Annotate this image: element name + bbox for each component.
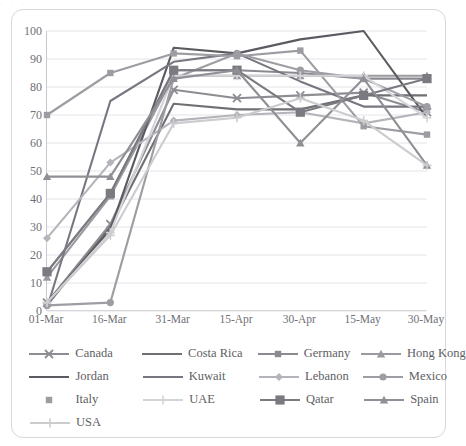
legend-row: JordanKuwaitLebanonMexico: [12, 365, 447, 388]
x-axis-tick: 31-Mar: [155, 313, 190, 325]
y-axis-tick: 90: [16, 52, 42, 67]
x-axis-tick: 15-Apr: [219, 313, 252, 325]
legend-row: ItalyUAEQatarSpain: [12, 388, 447, 411]
plot-area: [46, 31, 426, 311]
legend-row: CanadaCosta RicaGermanyHong Kong: [12, 342, 447, 365]
chart-legend: CanadaCosta RicaGermanyHong KongJordanKu…: [12, 342, 447, 437]
y-axis-tick: 60: [16, 136, 42, 151]
line-marker-icon: [140, 347, 186, 361]
legend-item-costa-rica[interactable]: Costa Rica: [140, 342, 256, 365]
legend-item-hong-kong[interactable]: Hong Kong: [359, 342, 447, 365]
legend-label: UAE: [187, 392, 215, 407]
legend-item-spain[interactable]: Spain: [362, 388, 447, 411]
triangle-marker-icon: [362, 393, 408, 407]
x-axis-tick: 01-Mar: [29, 313, 64, 325]
legend-item-italy[interactable]: Italy: [27, 388, 141, 411]
chart-card: 1009080706050403020100 01-Mar16-Mar31-Ma…: [11, 9, 446, 438]
legend-label: Jordan: [73, 369, 108, 384]
legend-label: Canada: [73, 346, 112, 361]
legend-item-germany[interactable]: Germany: [256, 342, 359, 365]
y-axis-tick: 80: [16, 80, 42, 95]
x-axis-labels: 01-Mar16-Mar31-Mar15-Apr30-Apr15-May30-M…: [46, 313, 426, 333]
legend-label: Spain: [408, 392, 438, 407]
series-mexico: [43, 50, 430, 309]
y-axis-tick: 100: [16, 24, 42, 39]
plus-marker-icon: [141, 393, 187, 407]
line-marker-icon: [141, 370, 187, 384]
line-marker-icon: [27, 370, 73, 384]
clipped-header-sliver: · · ·: [0, 0, 457, 7]
y-axis-tick: 20: [16, 248, 42, 263]
x-axis-tick: 16-Mar: [92, 313, 127, 325]
y-axis-tick: 30: [16, 220, 42, 235]
legend-label: Kuwait: [187, 369, 226, 384]
legend-label: Qatar: [304, 392, 334, 407]
legend-label: Lebanon: [303, 369, 349, 384]
legend-label: Mexico: [407, 369, 447, 384]
x-axis-tick: 30-May: [408, 313, 444, 325]
legend-row: USA: [12, 411, 447, 434]
legend-label: Italy: [73, 392, 98, 407]
legend-item-jordan[interactable]: Jordan: [27, 365, 140, 388]
circle-marker-icon: [361, 370, 407, 384]
smallsq-marker-icon: [256, 347, 302, 361]
y-axis-labels: 1009080706050403020100: [12, 31, 42, 311]
data-series-layer: [47, 31, 427, 311]
bigsq-marker-icon: [258, 393, 304, 407]
y-axis-tick: 10: [16, 276, 42, 291]
line-chart: 1009080706050403020100 01-Mar16-Mar31-Ma…: [12, 10, 447, 330]
x-axis-tick: 15-May: [344, 313, 380, 325]
smallsq-marker-icon: [27, 393, 73, 407]
triangle-marker-icon: [359, 347, 405, 361]
legend-item-kuwait[interactable]: Kuwait: [141, 365, 257, 388]
x-marker-icon: [27, 347, 73, 361]
legend-item-canada[interactable]: Canada: [27, 342, 140, 365]
series-kuwait: [47, 53, 427, 308]
legend-label: Hong Kong: [405, 346, 466, 361]
y-axis-tick: 40: [16, 192, 42, 207]
legend-item-usa[interactable]: USA: [28, 411, 146, 434]
legend-label: USA: [74, 415, 101, 430]
legend-item-qatar[interactable]: Qatar: [258, 388, 362, 411]
y-axis-tick: 70: [16, 108, 42, 123]
legend-item-uae[interactable]: UAE: [141, 388, 258, 411]
legend-item-lebanon[interactable]: Lebanon: [257, 365, 361, 388]
plus-marker-icon: [28, 416, 74, 430]
diamond-marker-icon: [257, 370, 303, 384]
series-usa: [43, 94, 432, 307]
legend-item-mexico[interactable]: Mexico: [361, 365, 447, 388]
x-axis-tick: 30-Apr: [283, 313, 316, 325]
y-axis-tick: 50: [16, 164, 42, 179]
legend-label: Germany: [302, 346, 351, 361]
legend-label: Costa Rica: [186, 346, 243, 361]
